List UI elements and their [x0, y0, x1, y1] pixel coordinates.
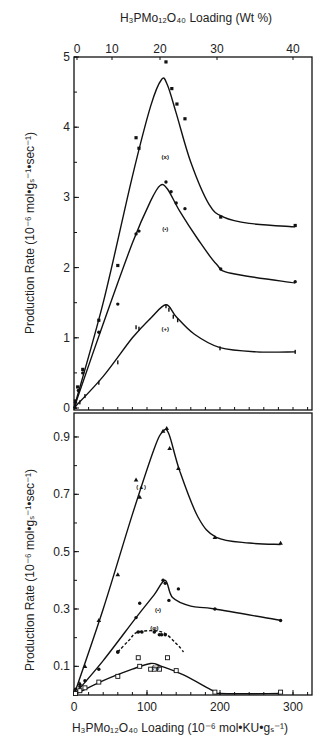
data-point — [116, 302, 119, 305]
y-tick-label: 2 — [63, 261, 70, 275]
data-point — [83, 686, 87, 690]
data-point — [294, 224, 297, 227]
y-tick-label: 4 — [63, 120, 70, 134]
data-point — [116, 572, 121, 576]
data-point — [77, 389, 80, 392]
data-point — [140, 630, 144, 634]
panel-top: 012345(x)(•)(+) — [63, 50, 312, 415]
fit-curve — [74, 305, 295, 408]
data-point — [174, 669, 178, 673]
series — [73, 426, 283, 695]
data-point — [279, 619, 282, 622]
data-point — [219, 267, 222, 270]
data-point — [116, 650, 120, 654]
data-point — [176, 466, 181, 470]
panel-bottom: 0.10.30.50.70.90100200300(▲)(•)(φ)(□) — [53, 408, 312, 714]
y-tick-label: 0.1 — [53, 659, 70, 673]
data-point — [76, 385, 79, 388]
fit-curve — [74, 580, 281, 695]
data-point — [164, 581, 167, 584]
data-point — [165, 304, 166, 308]
y-tick-label: 1 — [63, 331, 70, 345]
data-point — [81, 368, 84, 371]
series-label: (•) — [162, 226, 168, 232]
data-point — [78, 685, 81, 688]
data-point — [74, 401, 77, 404]
y-tick-label: 0 — [63, 401, 70, 415]
data-point — [160, 633, 164, 637]
series-label: (+) — [162, 326, 170, 332]
data-point — [74, 688, 77, 691]
series — [74, 180, 297, 408]
data-point — [278, 541, 283, 545]
series-label: (□) — [152, 664, 160, 670]
y-tick-label: 5 — [63, 50, 70, 64]
data-point — [117, 360, 118, 364]
data-point — [169, 190, 172, 193]
data-point — [173, 315, 174, 319]
data-point — [213, 607, 216, 610]
data-point — [177, 587, 180, 590]
data-point — [97, 667, 100, 670]
data-point — [165, 656, 169, 660]
data-point — [164, 426, 169, 430]
data-point — [84, 394, 85, 398]
data-point — [164, 60, 167, 63]
y-axis-title-bottom: Production Rate (10⁻⁶ mol•gₛ⁻¹•sec⁻¹) — [23, 469, 37, 671]
series — [74, 304, 296, 408]
data-point — [116, 674, 120, 678]
data-point — [167, 599, 170, 602]
series-label: (•) — [155, 607, 161, 613]
y-tick-label: 0.3 — [53, 602, 70, 616]
data-point — [116, 264, 119, 267]
fit-curve — [74, 185, 295, 408]
data-point — [175, 201, 178, 204]
data-point — [78, 689, 82, 693]
x-tick-label: 0 — [71, 700, 78, 714]
data-point — [167, 446, 172, 450]
y-tick-label: 0.9 — [53, 430, 70, 444]
data-point — [136, 656, 140, 660]
series-label: (φ) — [150, 625, 158, 631]
data-point — [138, 327, 139, 331]
data-point — [97, 680, 101, 684]
data-point — [137, 229, 140, 232]
data-point — [81, 371, 84, 374]
data-point — [175, 102, 178, 105]
data-point — [170, 87, 173, 90]
x2-tick-label: 10 — [105, 42, 119, 56]
x2-tick-label: 0 — [74, 42, 81, 56]
data-point — [73, 692, 77, 696]
data-point — [135, 325, 136, 329]
x-tick-label: 300 — [283, 700, 303, 714]
data-point — [294, 350, 295, 354]
series-label: (x) — [162, 154, 169, 160]
y-tick-label: 0.5 — [53, 545, 70, 559]
x2-tick-label: 30 — [210, 42, 224, 56]
series — [73, 656, 282, 696]
plot-frame — [74, 57, 312, 410]
data-point — [177, 318, 178, 322]
x2-tick-label: 40 — [286, 42, 300, 56]
data-point — [134, 616, 137, 619]
data-point — [219, 215, 222, 218]
y-tick-label: 3 — [63, 190, 70, 204]
x-tick-label: 200 — [210, 700, 230, 714]
data-point — [279, 690, 283, 694]
data-point — [97, 319, 100, 322]
data-point — [138, 602, 141, 605]
fit-curve — [74, 663, 281, 695]
data-point — [83, 679, 86, 682]
data-point — [161, 579, 164, 582]
data-point — [98, 381, 99, 385]
data-point — [164, 180, 167, 183]
chart: H₃PMo₁₂O₄₀ Loading (Wt %) 010203040 Prod… — [0, 0, 329, 753]
data-point — [134, 478, 139, 482]
data-point — [134, 136, 137, 139]
series — [74, 579, 283, 695]
series — [116, 630, 184, 654]
data-point — [97, 330, 100, 333]
fit-curve — [118, 631, 184, 652]
data-point — [183, 117, 186, 120]
top-axis-title: H₃PMo₁₂O₄₀ Loading (Wt %) — [120, 11, 272, 25]
